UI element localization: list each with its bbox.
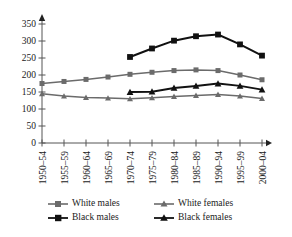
data-point (171, 38, 177, 44)
x-tick-label: 1955–59 (60, 151, 70, 185)
data-point (127, 54, 133, 60)
x-tick-label: 1985–89 (192, 151, 202, 185)
legend-marker-triangle-black (153, 213, 175, 223)
data-point (40, 81, 45, 86)
y-tick-label: 350 (22, 19, 37, 29)
legend-row-1: White males White females (47, 198, 245, 209)
y-tick-label: 250 (22, 53, 37, 63)
legend-label-black-females: Black females (178, 212, 232, 223)
data-point (259, 53, 265, 59)
x-tick-label: 1975–79 (148, 151, 158, 185)
y-tick-label: 50 (27, 121, 37, 131)
data-point (260, 77, 265, 82)
y-tick-label: 150 (22, 87, 37, 97)
legend-item-black-males[interactable]: Black males (47, 212, 139, 223)
legend-item-white-females[interactable]: White females (153, 198, 245, 209)
data-point (215, 32, 221, 38)
x-tick-label: 1960–64 (82, 151, 92, 185)
legend-row-2: Black males Black females (47, 212, 245, 223)
legend-marker-square-gray (47, 199, 69, 209)
data-point (216, 68, 221, 73)
data-point (194, 67, 199, 72)
data-point (238, 73, 243, 78)
data-point (237, 42, 243, 48)
chart-legend: White males White females Black males (0, 198, 292, 223)
legend-label-white-males: White males (72, 198, 120, 209)
x-tick-label: 1995–99 (236, 151, 246, 185)
y-tick-label: 300 (22, 36, 37, 46)
data-point (128, 72, 133, 77)
legend-item-white-males[interactable]: White males (47, 198, 139, 209)
legend-marker-square-black (47, 213, 69, 223)
data-point (193, 33, 199, 39)
line-chart: 0501001502002503003501950–541955–591960–… (0, 0, 292, 237)
legend-label-black-males: Black males (72, 212, 119, 223)
data-point (106, 75, 111, 80)
x-tick-label: 1970–74 (126, 151, 136, 185)
data-point (149, 46, 155, 52)
legend-label-white-females: White females (178, 198, 233, 209)
data-point (172, 68, 177, 73)
data-point (150, 70, 155, 75)
data-point (62, 79, 67, 84)
legend-marker-triangle-gray (153, 199, 175, 209)
legend-item-black-females[interactable]: Black females (153, 212, 245, 223)
y-tick-label: 0 (31, 138, 36, 148)
y-tick-label: 100 (22, 104, 37, 114)
x-tick-label: 1950–54 (38, 151, 48, 185)
y-tick-label: 200 (22, 70, 37, 80)
x-tick-label: 2000–04 (258, 151, 268, 185)
data-point (84, 77, 89, 82)
x-tick-label: 1965–69 (104, 151, 114, 185)
x-tick-label: 1980–84 (170, 151, 180, 185)
x-tick-label: 1990–94 (214, 151, 224, 185)
